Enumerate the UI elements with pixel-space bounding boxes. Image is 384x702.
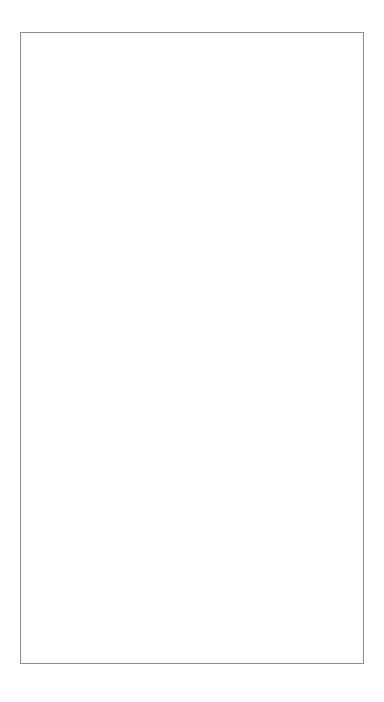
- worksheet-sheet-border: [20, 32, 364, 664]
- worksheet-page: [0, 0, 384, 702]
